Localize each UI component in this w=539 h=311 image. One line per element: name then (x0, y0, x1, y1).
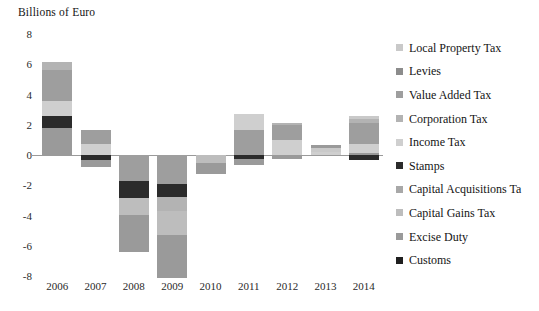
legend-swatch-icon (396, 91, 403, 98)
bar-segment[interactable] (311, 145, 341, 148)
legend-item[interactable]: Value Added Tax (396, 83, 539, 107)
bar-segment[interactable] (349, 155, 379, 160)
x-axis-tick-label: 2014 (349, 280, 379, 292)
x-axis-tick-label: 2009 (157, 280, 187, 292)
legend-swatch-icon (396, 162, 403, 169)
stacked-bar[interactable] (234, 34, 264, 276)
legend-item-label: Customs (409, 254, 451, 266)
y-axis-tick-label: 2 (27, 119, 33, 131)
bar-segment[interactable] (119, 155, 149, 181)
stacked-bar[interactable] (157, 34, 187, 276)
x-axis-tick-label: 2006 (42, 280, 72, 292)
legend-swatch-icon (396, 186, 403, 193)
bar-segment[interactable] (272, 140, 302, 155)
legend-swatch-icon (396, 68, 403, 75)
legend-item[interactable]: Corporation Tax (396, 107, 539, 131)
bar-segment[interactable] (349, 144, 379, 153)
chart-legend: Local Property TaxLeviesValue Added TaxC… (396, 36, 539, 276)
bar-segment[interactable] (81, 160, 111, 167)
legend-swatch-icon (396, 209, 403, 216)
stacked-bar[interactable] (119, 34, 149, 276)
legend-swatch-icon (396, 44, 403, 51)
chart-root: Billions of Euro 86420-2-4-6-8 200620072… (0, 0, 539, 311)
bar-segment[interactable] (349, 116, 379, 118)
bar-segment[interactable] (157, 235, 187, 278)
y-axis-tick-label: 8 (27, 28, 33, 40)
bar-segment[interactable] (157, 184, 187, 197)
bar-segment[interactable] (311, 148, 341, 152)
legend-item[interactable]: Levies (396, 60, 539, 84)
legend-item-label: Corporation Tax (409, 113, 488, 125)
legend-item[interactable]: Excise Duty (396, 225, 539, 249)
bar-segment[interactable] (119, 215, 149, 252)
legend-item-label: Excise Duty (409, 231, 468, 243)
y-axis-tick-label: 4 (27, 89, 33, 101)
bar-segment[interactable] (157, 211, 187, 235)
stacked-bar[interactable] (311, 34, 341, 276)
bar-segment[interactable] (81, 130, 111, 144)
stacked-bar[interactable] (349, 34, 379, 276)
legend-item-label: Levies (409, 65, 441, 77)
bar-segment[interactable] (42, 128, 72, 155)
legend-item-label: Local Property Tax (409, 42, 501, 54)
bar-segment[interactable] (42, 62, 72, 70)
bar-segment[interactable] (272, 123, 302, 125)
x-axis-tick-label: 2012 (272, 280, 302, 292)
bar-segment[interactable] (196, 163, 226, 174)
legend-item[interactable]: Stamps (396, 154, 539, 178)
bar-segment[interactable] (272, 155, 302, 159)
legend-swatch-icon (396, 139, 403, 146)
legend-swatch-icon (396, 257, 403, 264)
y-axis-tick-label: -2 (23, 179, 32, 191)
bar-segment[interactable] (42, 70, 72, 101)
bar-segment[interactable] (311, 152, 341, 155)
legend-item[interactable]: Customs (396, 248, 539, 272)
bar-segment[interactable] (81, 144, 111, 155)
x-axis-tick-label: 2010 (196, 280, 226, 292)
bar-segment[interactable] (234, 130, 264, 155)
legend-item-label: Capital Gains Tax (409, 207, 495, 219)
bar-segment[interactable] (119, 198, 149, 215)
y-axis-tick-label: 6 (27, 58, 33, 70)
bar-segment[interactable] (119, 181, 149, 198)
bar-segment[interactable] (196, 155, 226, 163)
legend-item[interactable]: Local Property Tax (396, 36, 539, 60)
bar-segment[interactable] (234, 114, 264, 130)
legend-item-label: Value Added Tax (409, 89, 491, 101)
plot-area: 86420-2-4-6-8 20062007200820092010201120… (38, 34, 383, 276)
x-axis-tick-label: 2007 (81, 280, 111, 292)
y-axis-tick-label: -8 (23, 270, 32, 282)
x-axis-tick-label: 2011 (234, 280, 264, 292)
legend-item[interactable]: Capital Gains Tax (396, 201, 539, 225)
stacked-bar[interactable] (42, 34, 72, 276)
bar-segment[interactable] (157, 155, 187, 184)
bar-segment[interactable] (42, 101, 72, 115)
chart-axis-title: Billions of Euro (18, 6, 95, 18)
stacked-bar[interactable] (81, 34, 111, 276)
stacked-bar[interactable] (196, 34, 226, 276)
x-axis-tick-label: 2013 (311, 280, 341, 292)
legend-item-label: Income Tax (409, 136, 466, 148)
x-axis-tick-label: 2008 (119, 280, 149, 292)
legend-swatch-icon (396, 233, 403, 240)
bar-segment[interactable] (349, 123, 379, 143)
legend-item-label: Capital Acquisitions Ta (409, 183, 521, 195)
y-axis-tick-label: -6 (23, 240, 32, 252)
bar-segment[interactable] (234, 159, 264, 165)
bar-segment[interactable] (272, 125, 302, 140)
legend-item-label: Stamps (409, 160, 444, 172)
bar-segment[interactable] (349, 119, 379, 124)
stacked-bar[interactable] (272, 34, 302, 276)
bar-segment[interactable] (42, 116, 72, 128)
legend-item[interactable]: Capital Acquisitions Ta (396, 178, 539, 202)
bar-segment[interactable] (157, 197, 187, 211)
y-axis-tick-label: -4 (23, 210, 32, 222)
legend-swatch-icon (396, 115, 403, 122)
legend-item[interactable]: Income Tax (396, 130, 539, 154)
